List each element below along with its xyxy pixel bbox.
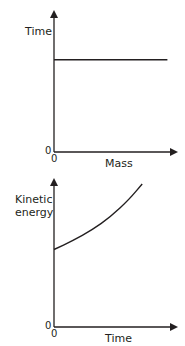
x-axis-label: Mass [105, 157, 133, 170]
y-axis-label-line-2: energy [15, 206, 54, 219]
x-axis-label: Time [104, 332, 132, 345]
chart-kinetic-energy-vs-time: Kinetic energy Time 0 0 [15, 180, 176, 345]
x-origin-label: 0 [51, 328, 57, 339]
y-axis-label: Time [24, 25, 52, 38]
y-axis-label-line-1: Kinetic [15, 193, 52, 206]
x-origin-label: 0 [51, 153, 57, 164]
chart-time-vs-mass: Time Mass 0 0 [24, 12, 176, 170]
figure: Time Mass 0 0 Kinetic energy Time 0 0 [0, 0, 185, 346]
series-line-kinetic-energy-vs-time [54, 184, 142, 250]
